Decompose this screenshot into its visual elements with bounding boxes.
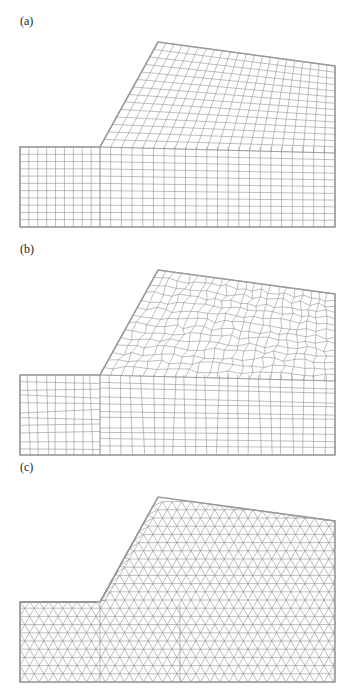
triangular-mesh — [0, 0, 353, 691]
panel-c: (c) — [0, 0, 353, 691]
